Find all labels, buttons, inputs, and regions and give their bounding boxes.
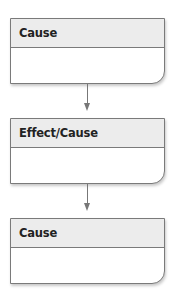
flow-box-body xyxy=(11,48,164,84)
flow-box-body xyxy=(11,148,164,184)
connector-line-1 xyxy=(87,84,88,104)
flow-box-1: Cause xyxy=(10,18,165,84)
arrow-down-icon xyxy=(84,203,90,211)
flow-box-3: Cause xyxy=(10,218,165,284)
flow-box-body xyxy=(11,248,164,284)
flow-box-title: Cause xyxy=(11,19,164,48)
flow-box-title: Effect/Cause xyxy=(11,119,164,148)
connector-line-2 xyxy=(87,184,88,204)
arrow-down-icon xyxy=(84,103,90,111)
flow-box-2: Effect/Cause xyxy=(10,118,165,184)
flow-box-title: Cause xyxy=(11,219,164,248)
